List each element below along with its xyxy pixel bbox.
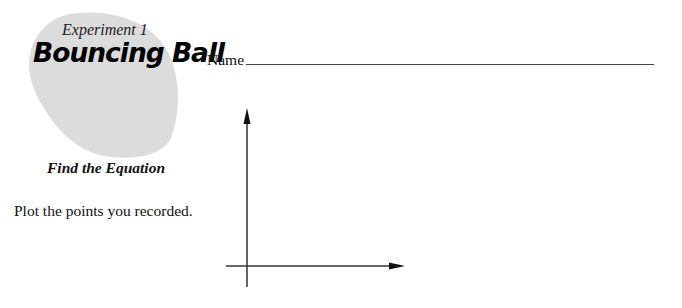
blank-graph-axes: [0, 0, 682, 308]
x-axis-arrow-icon: [389, 263, 405, 270]
y-axis-arrow-icon: [244, 108, 251, 124]
y-axis: [244, 108, 251, 287]
x-axis: [226, 263, 405, 270]
